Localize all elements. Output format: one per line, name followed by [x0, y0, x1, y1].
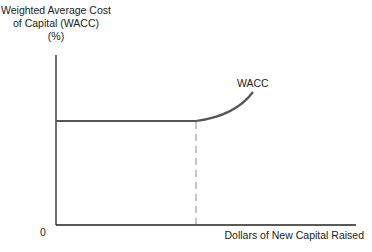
origin-label: 0 — [40, 226, 46, 238]
wacc-curve-label: WACC — [237, 77, 269, 89]
chart-canvas — [0, 0, 372, 252]
wacc-rising-curve — [196, 92, 253, 121]
x-axis-label: Dollars of New Capital Raised — [225, 229, 364, 241]
